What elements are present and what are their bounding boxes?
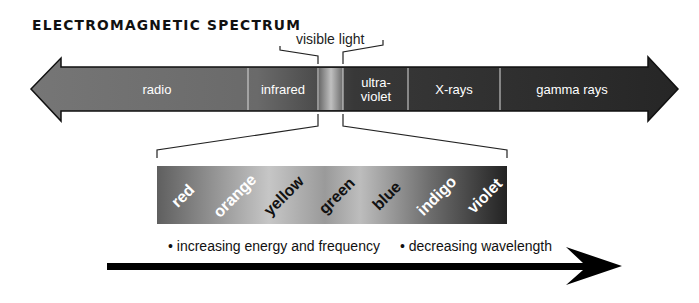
- color-yellow: yellow: [260, 172, 307, 219]
- region-infrared: infrared: [261, 82, 305, 97]
- visible-color-band: red orange yellow green blue indigo viol…: [157, 166, 507, 224]
- color-indigo: indigo: [414, 173, 461, 220]
- visible-band: [319, 68, 343, 110]
- color-red: red: [168, 181, 198, 211]
- color-green: green: [315, 174, 359, 218]
- color-orange: orange: [210, 171, 260, 221]
- visible-light-label: visible light: [296, 31, 364, 47]
- note-energy-frequency: • increasing energy and frequency: [168, 238, 380, 254]
- region-ultraviolet-line1: ultra-: [361, 75, 391, 90]
- note-wavelength: • decreasing wavelength: [400, 238, 552, 254]
- color-blue: blue: [369, 178, 405, 214]
- region-ultraviolet-line2: violet: [361, 89, 392, 104]
- region-xrays: X-rays: [435, 82, 473, 97]
- zoom-connector-right: [343, 114, 507, 158]
- region-radio: radio: [143, 82, 172, 97]
- color-violet: violet: [464, 175, 506, 217]
- zoom-connector-left: [157, 114, 318, 158]
- region-gamma-rays: gamma rays: [536, 82, 608, 97]
- visible-bracket-left: [280, 46, 318, 64]
